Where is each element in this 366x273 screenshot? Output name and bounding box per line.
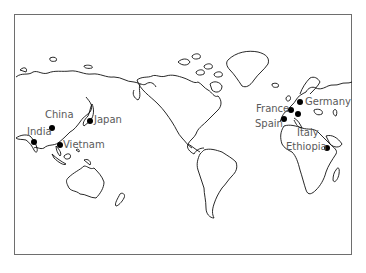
marker-dot-india	[31, 139, 37, 145]
marker-label-spain: Spain	[255, 119, 283, 129]
marker-dot-italy	[295, 111, 301, 117]
marker-label-japan: Japan	[94, 115, 122, 125]
south-america-outline	[197, 149, 237, 218]
marker-dot-japan	[87, 118, 93, 124]
marker-label-ethiopia: Ethiopia	[286, 142, 327, 152]
marker-label-italy: Italy	[297, 128, 319, 138]
marker-label-germany: Germany	[305, 97, 351, 107]
russia-coast	[16, 71, 156, 87]
marker-label-india: India	[27, 127, 52, 137]
marker-label-vietnam: Vietnam	[63, 140, 105, 150]
greenland-outline	[227, 51, 269, 86]
north-america-coast	[137, 75, 221, 154]
australia-outline	[67, 166, 105, 198]
scandinavia-outline	[300, 77, 320, 94]
marker-label-france: France	[256, 104, 289, 114]
new-zealand-outline	[115, 193, 124, 206]
madagascar-outline	[333, 168, 339, 182]
marker-label-china: China	[45, 110, 74, 120]
marker-dot-germany	[297, 99, 303, 105]
